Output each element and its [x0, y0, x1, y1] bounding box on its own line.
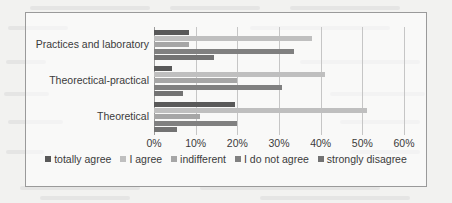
bar — [154, 91, 183, 96]
bar — [154, 78, 237, 83]
legend-item[interactable]: totally agree — [45, 153, 111, 165]
x-tick-label: 20% — [227, 137, 248, 149]
bar — [154, 55, 214, 60]
bar — [154, 49, 294, 54]
x-tick-label: 40% — [310, 137, 331, 149]
bar — [154, 102, 235, 107]
gridline — [404, 27, 405, 135]
bar-group: Theoretical — [154, 102, 404, 133]
bleed-line — [290, 6, 400, 10]
bar — [154, 121, 237, 126]
bar — [154, 85, 282, 90]
bleed-line — [260, 196, 410, 200]
x-tick-label: 60% — [393, 137, 414, 149]
legend-swatch-icon — [45, 156, 51, 162]
chart-legend: totally agreeI agreeindifferentI do not … — [26, 153, 426, 165]
legend-item[interactable]: I agree — [120, 153, 162, 165]
plot-area: Practices and laboratoryTheorectical-pra… — [154, 27, 404, 135]
category-label: Practices and laboratory — [36, 39, 149, 50]
legend-label: I agree — [129, 153, 162, 165]
legend-item[interactable]: indifferent — [171, 153, 226, 165]
bar — [154, 114, 200, 119]
legend-item[interactable]: strongly disagree — [318, 153, 407, 165]
bar — [154, 36, 312, 41]
bar — [154, 42, 189, 47]
bar — [154, 127, 177, 132]
category-label: Theorectical-practical — [49, 75, 149, 86]
bar-group: Practices and laboratory — [154, 30, 404, 61]
x-tick-label: 10% — [185, 137, 206, 149]
bar-group: Theorectical-practical — [154, 66, 404, 97]
bleed-line — [40, 196, 130, 200]
x-tick-label: 50% — [352, 137, 373, 149]
legend-swatch-icon — [235, 156, 241, 162]
bar — [154, 108, 367, 113]
x-tick-label: 30% — [268, 137, 289, 149]
x-tick-label: 0% — [146, 137, 161, 149]
legend-label: indifferent — [180, 153, 226, 165]
chart-figure: Practices and laboratoryTheorectical-pra… — [25, 12, 427, 187]
category-label: Theoretical — [97, 111, 149, 122]
legend-swatch-icon — [120, 156, 126, 162]
bar — [154, 30, 189, 35]
legend-swatch-icon — [318, 156, 324, 162]
legend-swatch-icon — [171, 156, 177, 162]
bleed-line — [170, 6, 260, 10]
legend-label: totally agree — [54, 153, 111, 165]
bleed-line — [30, 6, 150, 10]
legend-label: I do not agree — [244, 153, 309, 165]
bar — [154, 72, 325, 77]
bar — [154, 66, 172, 71]
legend-label: strongly disagree — [327, 153, 407, 165]
legend-item[interactable]: I do not agree — [235, 153, 309, 165]
